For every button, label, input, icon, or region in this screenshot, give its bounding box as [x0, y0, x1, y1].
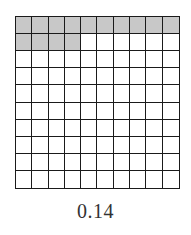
- grid-cell: [97, 103, 113, 120]
- decimal-label: 0.14: [0, 200, 191, 223]
- grid-cell: [146, 137, 162, 154]
- grid-cell: [49, 171, 65, 188]
- grid-cell: [163, 171, 179, 188]
- grid-cell: [97, 34, 113, 51]
- grid-cell: [32, 68, 48, 85]
- grid-cell: [81, 171, 97, 188]
- grid-cell: [81, 51, 97, 68]
- grid-cell: [163, 51, 179, 68]
- grid-cell: [146, 34, 162, 51]
- grid-cell: [16, 120, 32, 137]
- grid-cell: [32, 171, 48, 188]
- grid-cell: [114, 137, 130, 154]
- grid-cell-shaded: [114, 17, 130, 34]
- grid-cell-shaded: [81, 17, 97, 34]
- grid-cell: [97, 154, 113, 171]
- grid-cell: [16, 171, 32, 188]
- grid-cell: [130, 34, 146, 51]
- grid-cell: [81, 68, 97, 85]
- grid-cell: [81, 137, 97, 154]
- grid-cell: [130, 171, 146, 188]
- grid-cell: [81, 103, 97, 120]
- grid-cell: [97, 137, 113, 154]
- grid-cell-shaded: [65, 17, 81, 34]
- grid-cell: [49, 103, 65, 120]
- grid-cell: [130, 68, 146, 85]
- grid-cell: [32, 51, 48, 68]
- grid-cell: [97, 85, 113, 102]
- grid-cell: [163, 34, 179, 51]
- grid-cell: [16, 68, 32, 85]
- grid-cell: [130, 154, 146, 171]
- grid-cell: [65, 103, 81, 120]
- grid-cell: [65, 171, 81, 188]
- grid-cell: [32, 120, 48, 137]
- grid-cell: [32, 154, 48, 171]
- grid-cell-shaded: [49, 17, 65, 34]
- grid-cell-shaded: [49, 34, 65, 51]
- grid-cell: [81, 85, 97, 102]
- grid-cell-shaded: [163, 17, 179, 34]
- grid-cell: [114, 85, 130, 102]
- grid-cell: [97, 171, 113, 188]
- grid-cell: [16, 85, 32, 102]
- grid-cell: [65, 51, 81, 68]
- grid-cell-shaded: [130, 17, 146, 34]
- grid-cell: [16, 137, 32, 154]
- grid-cell: [163, 120, 179, 137]
- grid-cell: [49, 51, 65, 68]
- hundredths-grid: [15, 16, 180, 189]
- grid-cell: [49, 154, 65, 171]
- grid-cell: [114, 120, 130, 137]
- grid-cell: [146, 68, 162, 85]
- grid-cell: [146, 85, 162, 102]
- grid-cell: [114, 171, 130, 188]
- grid-cell: [130, 137, 146, 154]
- grid-cell: [81, 34, 97, 51]
- grid-cell-shaded: [97, 17, 113, 34]
- grid-cell: [130, 120, 146, 137]
- grid-cell: [114, 34, 130, 51]
- grid-cell: [32, 85, 48, 102]
- grid-cell: [146, 154, 162, 171]
- grid-cell: [146, 103, 162, 120]
- grid-cell-shaded: [16, 17, 32, 34]
- grid-cell-shaded: [32, 17, 48, 34]
- grid-cell: [49, 120, 65, 137]
- grid-cell: [114, 51, 130, 68]
- grid-cell: [114, 154, 130, 171]
- grid-cell: [163, 103, 179, 120]
- grid-cell: [163, 154, 179, 171]
- grid-cell-shaded: [16, 34, 32, 51]
- grid-cell: [49, 68, 65, 85]
- grid-cell: [65, 154, 81, 171]
- grid-cell: [130, 103, 146, 120]
- grid-cell: [32, 103, 48, 120]
- grid-cell: [114, 68, 130, 85]
- grid-cell: [16, 154, 32, 171]
- grid-cell-shaded: [65, 34, 81, 51]
- grid-cell: [49, 85, 65, 102]
- grid-cell: [16, 51, 32, 68]
- grid-cell: [97, 51, 113, 68]
- grid-cell: [163, 137, 179, 154]
- grid-cell: [65, 85, 81, 102]
- grid-cell: [163, 85, 179, 102]
- grid-cell: [32, 137, 48, 154]
- grid-cell: [81, 120, 97, 137]
- grid-cell-shaded: [32, 34, 48, 51]
- grid-cell-shaded: [146, 17, 162, 34]
- grid-cell: [146, 120, 162, 137]
- grid-cell: [130, 51, 146, 68]
- grid-cell: [97, 68, 113, 85]
- grid-cell: [65, 137, 81, 154]
- grid-cell: [16, 103, 32, 120]
- grid-cell: [97, 120, 113, 137]
- grid-cell: [81, 154, 97, 171]
- grid-cell: [130, 85, 146, 102]
- grid-cell: [65, 68, 81, 85]
- grid-cell: [146, 171, 162, 188]
- grid-cell: [146, 51, 162, 68]
- grid-cell: [49, 137, 65, 154]
- grid-cell: [163, 68, 179, 85]
